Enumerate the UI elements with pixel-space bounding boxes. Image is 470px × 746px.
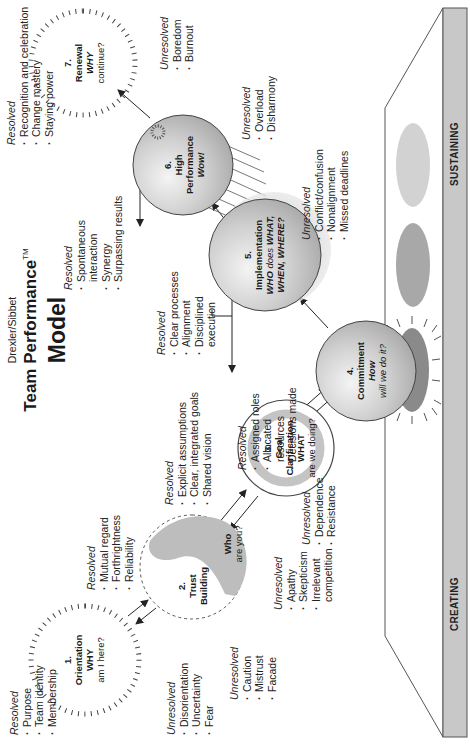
list-item-continued: resources xyxy=(274,387,287,470)
stage-question: will we do it? xyxy=(377,326,388,416)
stage-question-does: does xyxy=(264,248,275,269)
stage-question-when-where: WHEN, WHERE? xyxy=(275,200,286,310)
list-item: Synergy xyxy=(100,196,113,290)
resolved-heading: Resolved xyxy=(62,196,75,290)
stage-1-label: 1. Orientation WHY am I here? xyxy=(62,620,106,700)
list-item: Team identity xyxy=(33,665,46,735)
unresolved-heading: Unresolved xyxy=(300,477,313,545)
unresolved-heading: Unresolved xyxy=(158,17,171,70)
unresolved-heading: Unresolved xyxy=(240,76,253,140)
unresolved-heading: Unresolved xyxy=(300,149,313,240)
stage-question-key: Wow! xyxy=(195,120,206,210)
stage-number: 1. xyxy=(62,620,73,700)
stage-6-unresolved: Unresolved OverloadDisharmony xyxy=(240,76,278,140)
list-item: Disciplined xyxy=(193,271,206,355)
list-item: Mutual regard xyxy=(98,515,111,590)
stage-number: 6. xyxy=(162,120,173,210)
stage-name: Trust xyxy=(187,556,198,616)
team-performance-model-diagram: Drexler/Sibbet Team PerformanceTM Model … xyxy=(0,0,470,746)
list-item: Staying power xyxy=(43,7,56,145)
resolved-heading: Resolved xyxy=(8,665,21,735)
stage-2-label: 2. Trust Building xyxy=(176,556,209,616)
list-item: Purpose xyxy=(21,665,34,735)
list-item: Irrelevant xyxy=(310,548,323,610)
stage-2-question: Who are you? xyxy=(222,514,244,574)
stage-5-resolved: Resolved Clear processesAlignmentDiscipl… xyxy=(155,271,218,355)
stage-question-what: WHAT, xyxy=(264,216,275,246)
list-item: Skepticism xyxy=(297,548,310,610)
list-item: Caution xyxy=(241,647,254,700)
resolved-heading: Resolved xyxy=(163,392,176,505)
stage-name: Renewal xyxy=(73,23,84,103)
title-main: Team PerformanceTM xyxy=(21,210,41,450)
list-item: Membership xyxy=(46,665,59,735)
list-item: Spontaneous xyxy=(75,196,88,290)
list-item: Burnout xyxy=(183,17,196,70)
title-authors: Drexler/Sibbet xyxy=(6,230,18,430)
list-item-continued: interaction xyxy=(87,196,100,290)
stage-1-resolved: Resolved PurposeTeam identityMembership xyxy=(8,665,58,735)
list-item: Surpassing results xyxy=(112,196,125,290)
stage-6-resolved: Resolved SpontaneousinteractionSynergySu… xyxy=(62,196,125,290)
label-sustaining: SUSTAINING xyxy=(449,122,460,186)
list-item: Reliability xyxy=(123,515,136,590)
list-item: Apathy xyxy=(285,548,298,610)
label-creating: CREATING xyxy=(449,577,460,631)
stage-7-unresolved: Unresolved BoredomBurnout xyxy=(158,17,196,70)
stage-4-unresolved: Unresolved DependenceResistance xyxy=(300,477,338,545)
stage-7-label: 7. Renewal WHY continue? xyxy=(62,23,106,103)
ellipse-light xyxy=(396,123,430,207)
stage-name: High xyxy=(173,120,184,210)
list-item: Fear xyxy=(203,663,216,735)
trademark: TM xyxy=(21,248,30,260)
stage-2-resolved: Resolved Mutual regardForthrightnessReli… xyxy=(85,515,135,590)
stage-2-unresolved: Unresolved CautionMistrustFacade xyxy=(228,647,278,700)
list-item-continued: competition xyxy=(322,548,335,610)
stage-7-resolved: Resolved Recognition and celebrationChan… xyxy=(5,7,55,145)
stage-6-label: 6. High Performance Wow! xyxy=(162,120,206,210)
stage-question: are we doing? xyxy=(306,408,317,488)
list-item: Nonalignment xyxy=(325,149,338,240)
ellipse-medium xyxy=(396,223,430,307)
stage-question: am I here? xyxy=(95,620,106,700)
list-item: Uncertainty xyxy=(190,663,203,735)
stage-3-resolved: Resolved Explicit assumptionsClear, inte… xyxy=(163,392,213,505)
stage-name-2: Building xyxy=(198,556,209,616)
list-item: Decisions made xyxy=(286,387,299,470)
stage-question-key: WHY xyxy=(84,23,95,103)
list-item: Recognition and celebration xyxy=(18,7,31,145)
stage-1-unresolved: Unresolved DisorientationUncertaintyFear xyxy=(165,663,215,735)
stage-5-label: 5. Implementation WHO does WHAT, WHEN, W… xyxy=(242,200,286,310)
stage-number: 4. xyxy=(344,326,355,416)
list-item: Clear, integrated goals xyxy=(188,392,201,505)
list-item: Resistance xyxy=(325,477,338,545)
resolved-heading: Resolved xyxy=(155,271,168,355)
stage-question: are you? xyxy=(233,514,244,574)
stage-4-resolved: Resolved Assigned rolesAllocatedresource… xyxy=(236,387,299,470)
list-item: Allocated xyxy=(261,387,274,470)
unresolved-heading: Unresolved xyxy=(228,647,241,700)
stage-question: continue? xyxy=(95,23,106,103)
stage-name: Commitment xyxy=(355,326,366,416)
list-item: Boredom xyxy=(171,17,184,70)
stage-number: 7. xyxy=(62,23,73,103)
stage-name: Orientation xyxy=(73,620,84,700)
list-item: Clear processes xyxy=(168,271,181,355)
list-item: Change mastery xyxy=(30,7,43,145)
list-item: Disharmony xyxy=(265,76,278,140)
stage-question-key: WHY xyxy=(84,620,95,700)
stage-name: Implementation xyxy=(253,200,264,310)
stage-number: 5. xyxy=(242,200,253,310)
unresolved-heading: Unresolved xyxy=(272,548,285,610)
list-item: Assigned roles xyxy=(249,387,262,470)
list-item: Dependence xyxy=(313,477,326,545)
list-item: Conflict/confusion xyxy=(313,149,326,240)
list-item: Facade xyxy=(266,647,279,700)
resolved-heading: Resolved xyxy=(5,7,18,145)
resolved-heading: Resolved xyxy=(236,387,249,470)
list-item: Forthrightness xyxy=(110,515,123,590)
stage-5-unresolved: Unresolved Conflict/confusionNonalignmen… xyxy=(300,149,350,240)
stage-question-key: Who xyxy=(222,514,233,574)
list-item: Overload xyxy=(253,76,266,140)
list-item: Missed deadlines xyxy=(338,149,351,240)
